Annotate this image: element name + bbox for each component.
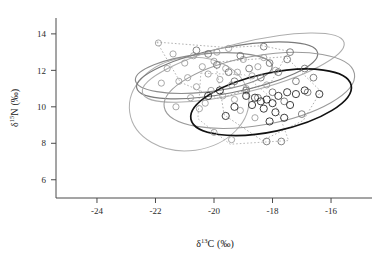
data-point-group-a-light-gray	[202, 100, 208, 106]
data-point-group-c-dark	[260, 105, 267, 112]
isotope-biplot-figure: 68101214 -24-22-20-18-16 δ13C(‰) δ15N(‰)	[0, 0, 386, 258]
data-point-group-b-medium-gray	[193, 47, 200, 54]
y-axis-title: δ15N(‰)	[8, 89, 21, 127]
x-axis-ticks: -24-22-20-18-16	[91, 198, 338, 216]
svg-text:δ15N(‰): δ15N(‰)	[8, 89, 21, 127]
y-tick-label: 6	[42, 175, 47, 185]
data-point-group-c-dark	[272, 109, 279, 116]
y-axis-ticks: 68101214	[37, 29, 56, 185]
x-tick-label: -24	[91, 206, 103, 216]
x-axis-title: δ13C(‰)	[196, 237, 234, 250]
data-point-group-a-light-gray	[252, 115, 258, 121]
x-tick-label: -22	[149, 206, 161, 216]
x-tick-label: -18	[267, 206, 279, 216]
data-point-group-a-light-gray	[158, 80, 164, 86]
data-point-group-a-light-gray	[155, 40, 161, 46]
data-point-group-a-light-gray	[173, 104, 179, 110]
data-point-group-c-dark	[248, 101, 255, 108]
svg-text:δ13C(‰): δ13C(‰)	[196, 237, 234, 250]
y-tick-label: 12	[37, 66, 46, 76]
x-tick-label: -16	[325, 206, 337, 216]
data-point-group-b-medium-gray	[310, 74, 317, 81]
ellipse-light-gray-wide-top	[137, 19, 350, 117]
data-point-group-a-light-gray	[255, 64, 261, 70]
data-point-group-c-dark	[275, 92, 282, 99]
data-point-group-a-light-gray	[199, 64, 205, 70]
data-point-group-b-medium-gray	[278, 138, 285, 145]
y-tick-label: 8	[42, 138, 47, 148]
data-point-group-a-light-gray	[196, 106, 202, 112]
data-point-group-c-dark	[231, 103, 238, 110]
plot-canvas: 68101214 -24-22-20-18-16 δ13C(‰) δ15N(‰)	[0, 0, 386, 258]
data-point-group-c-dark	[284, 89, 291, 96]
data-point-group-a-light-gray	[170, 51, 176, 57]
axis-layer: 68101214 -24-22-20-18-16	[37, 18, 372, 216]
ellipse-light-gray-large-left	[123, 50, 255, 159]
data-point-group-a-light-gray	[231, 96, 237, 102]
data-point-group-c-dark	[222, 112, 229, 119]
data-point-group-b-medium-gray	[293, 78, 300, 85]
data-point-group-a-light-gray	[228, 137, 234, 143]
data-point-group-c-dark	[286, 101, 293, 108]
x-tick-label: -20	[208, 206, 220, 216]
data-point-group-a-light-gray	[217, 76, 223, 82]
data-point-group-c-dark	[292, 90, 299, 97]
data-point-group-b-medium-gray	[246, 65, 253, 72]
y-tick-label: 14	[37, 29, 47, 39]
data-point-group-c-dark	[269, 100, 276, 107]
data-point-group-a-light-gray	[214, 49, 220, 55]
y-tick-label: 10	[37, 102, 47, 112]
data-point-group-b-medium-gray	[284, 56, 291, 63]
data-point-group-a-light-gray	[205, 71, 211, 77]
ellipse-gray-right-lower	[158, 40, 360, 142]
data-point-group-a-light-gray	[193, 84, 199, 90]
